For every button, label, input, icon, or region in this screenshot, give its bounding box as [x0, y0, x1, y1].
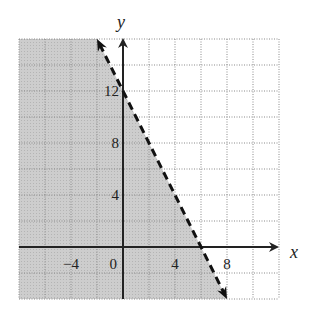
x-tick-label: 0	[110, 256, 118, 272]
y-tick-label: 12	[104, 83, 119, 99]
x-tick-label: −4	[63, 256, 79, 272]
x-tick-label: 4	[171, 256, 179, 272]
x-axis-label: x	[289, 242, 298, 262]
y-axis-label: y	[115, 12, 125, 32]
y-tick-label: 8	[112, 135, 120, 151]
y-tick-label: 4	[112, 187, 120, 203]
inequality-graph: −40484812 x y	[0, 0, 310, 323]
x-tick-label: 8	[223, 256, 231, 272]
